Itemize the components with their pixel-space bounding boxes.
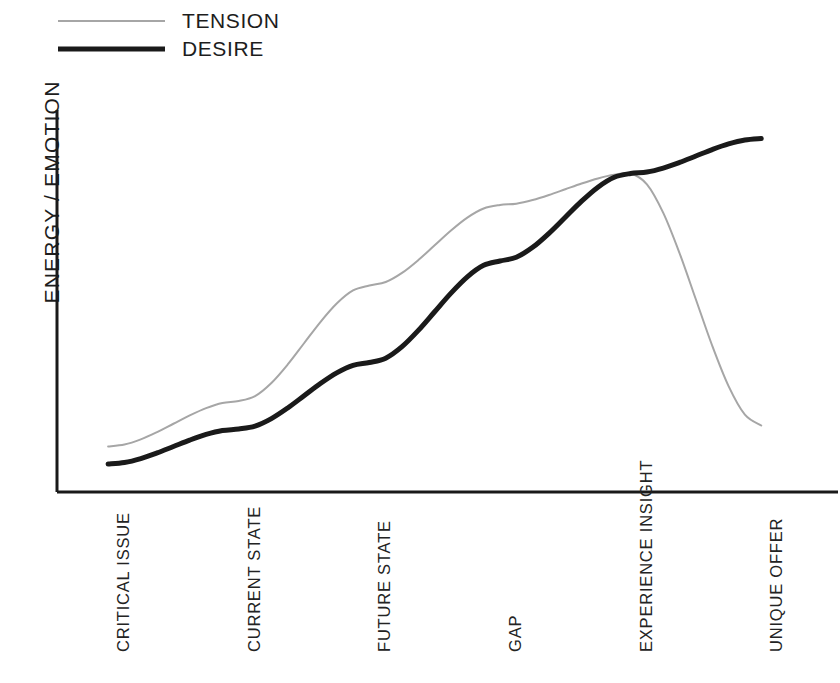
desire-curve bbox=[108, 139, 761, 465]
x-axis-label-5: UNIQUE OFFER bbox=[767, 518, 786, 652]
x-axis-label-2: FUTURE STATE bbox=[375, 520, 394, 652]
x-axis-label-0: CRITICAL ISSUE bbox=[114, 512, 133, 652]
chart-container: TENSION DESIRE ENERGY / EMOTION CRITICAL… bbox=[0, 0, 840, 683]
x-axis-label-4: EXPERIENCE INSIGHT bbox=[637, 460, 656, 652]
x-axis-label-1: CURRENT STATE bbox=[245, 506, 264, 652]
x-axis-label-3: GAP bbox=[506, 615, 525, 652]
